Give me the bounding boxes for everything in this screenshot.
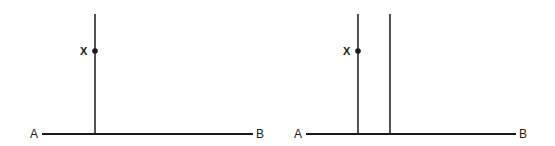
- point-x: [355, 48, 361, 54]
- label-x: X: [343, 45, 351, 57]
- label-x: X: [80, 45, 88, 57]
- point-x: [92, 48, 98, 54]
- left-diagram: A B X: [30, 14, 264, 141]
- diagram-canvas: A B X A B X: [0, 0, 555, 146]
- label-a: A: [294, 127, 302, 141]
- right-diagram: A B X: [294, 14, 527, 141]
- label-b: B: [256, 127, 264, 141]
- label-b: B: [519, 127, 527, 141]
- label-a: A: [30, 127, 38, 141]
